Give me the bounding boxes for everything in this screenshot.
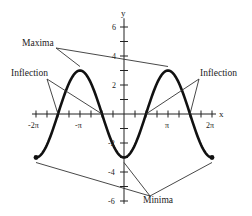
y-tick-label: 6 xyxy=(112,23,116,32)
y-tick-label: -4 xyxy=(108,168,115,177)
chart: y x -2π -π π 2π 6 4 2 -2 -4 -6 Maxima In… xyxy=(0,0,252,216)
y-tick-label: -2 xyxy=(108,139,115,148)
x-tick-label: π xyxy=(165,121,169,130)
endpoint-dot-left xyxy=(34,155,39,160)
leader-line-maxima xyxy=(56,48,80,67)
endpoint-dot-right xyxy=(210,155,215,160)
inflection-label-left: Inflection xyxy=(11,68,48,78)
minima-label: Minima xyxy=(143,195,174,205)
leader-line-inflection xyxy=(47,79,102,114)
inflection-label-right: Inflection xyxy=(200,68,237,78)
x-tick-label: -π xyxy=(75,121,82,130)
leader-line-inflection xyxy=(47,79,58,114)
y-tick-label: 4 xyxy=(112,52,116,61)
x-tick-label: 2π xyxy=(206,121,214,130)
leader-line-minima xyxy=(150,163,212,197)
leader-line-minima xyxy=(124,163,150,197)
x-axis-label: x xyxy=(219,109,224,119)
maxima-label: Maxima xyxy=(22,38,54,48)
y-tick-label: 2 xyxy=(112,81,116,90)
x-tick-label: -2π xyxy=(28,121,39,130)
y-axis-label: y xyxy=(121,8,126,18)
leader-line-minima xyxy=(36,163,150,197)
y-tick-label: -6 xyxy=(108,197,115,206)
